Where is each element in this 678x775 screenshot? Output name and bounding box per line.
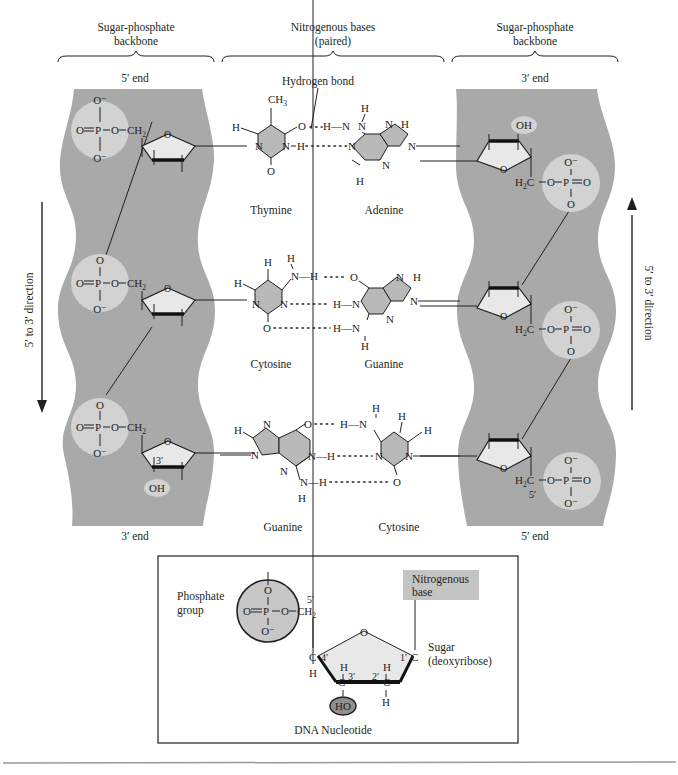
svg-text:H: H: [297, 140, 305, 152]
right-direction-label: 5′ to 3′ direction: [643, 266, 655, 341]
svg-text:H: H: [234, 277, 242, 289]
header-right-label: Sugar-phosphate backbone: [496, 21, 573, 47]
svg-text:O: O: [547, 323, 555, 335]
base-label-guanine-2: Guanine: [264, 521, 303, 533]
svg-text:O: O: [267, 165, 275, 177]
svg-text:O: O: [111, 421, 119, 433]
svg-text:N: N: [358, 120, 366, 132]
inset-ho-label: HO: [335, 700, 351, 712]
left-oh-label: OH: [149, 482, 165, 494]
svg-text:O: O: [111, 277, 119, 289]
header-left-label: Sugar-phosphate backbone: [97, 21, 174, 47]
hydrogen-bond-label: Hydrogen bond: [282, 75, 354, 88]
svg-text:H: H: [372, 402, 380, 414]
svg-text:H: H: [287, 252, 295, 264]
sugar-label: Sugar: [428, 641, 455, 654]
svg-text:base: base: [412, 586, 432, 598]
svg-text:O: O: [164, 129, 171, 140]
svg-text:(deoxyribose): (deoxyribose): [428, 655, 492, 668]
svg-text:O: O: [96, 399, 104, 411]
base-label-cytosine: Cytosine: [251, 358, 292, 371]
svg-text:O⁻: O⁻: [564, 303, 578, 315]
svg-text:O⁻: O⁻: [93, 94, 107, 106]
svg-text:O: O: [76, 277, 84, 289]
svg-text:H: H: [309, 667, 317, 679]
svg-text:H: H: [234, 424, 242, 436]
svg-text:N: N: [255, 140, 263, 152]
svg-text:H—N: H—N: [333, 298, 360, 310]
svg-text:O: O: [76, 421, 84, 433]
svg-text:O: O: [547, 176, 555, 188]
svg-text:C: C: [383, 676, 390, 688]
svg-text:H—N: H—N: [333, 322, 360, 334]
left-top-end-label: 5′ end: [121, 72, 149, 84]
svg-text:H: H: [413, 271, 421, 283]
right-top-end-label: 3′ end: [521, 72, 549, 84]
svg-text:H: H: [424, 424, 432, 436]
svg-text:O: O: [567, 345, 575, 357]
left-backbone: [58, 89, 215, 526]
svg-text:N: N: [396, 271, 404, 283]
svg-text:P: P: [563, 474, 569, 486]
svg-text:(paired): (paired): [315, 35, 352, 48]
svg-text:P: P: [95, 124, 101, 136]
svg-text:N: N: [263, 418, 271, 430]
svg-text:N: N: [251, 449, 259, 461]
svg-text:group: group: [177, 604, 204, 617]
left-3prime-label: 3′: [156, 455, 163, 466]
svg-text:Sugar-phosphate: Sugar-phosphate: [496, 21, 573, 34]
inset-title: DNA Nucleotide: [294, 724, 372, 736]
left-direction-arrow: 5′ to 3′ direction: [23, 202, 47, 413]
svg-text:N: N: [385, 118, 393, 130]
cytosine-ring: [381, 432, 408, 466]
svg-text:O: O: [298, 120, 306, 132]
svg-text:P: P: [263, 605, 269, 617]
svg-text:backbone: backbone: [513, 35, 557, 47]
brace-left: [58, 51, 214, 62]
svg-text:backbone: backbone: [114, 35, 158, 47]
svg-text:O: O: [500, 164, 507, 175]
svg-text:2′: 2′: [372, 671, 379, 682]
svg-text:CH3: CH3: [268, 93, 287, 108]
svg-text:O⁻: O⁻: [261, 625, 275, 637]
bottom-divider: [3, 762, 676, 763]
svg-text:H: H: [298, 492, 306, 504]
svg-text:N: N: [348, 140, 356, 152]
svg-text:N: N: [280, 298, 288, 310]
base-pair-1: Hydrogen bond CH3 H O H—N N N H O Thymin…: [232, 75, 460, 217]
svg-text:H: H: [232, 121, 240, 133]
base-label-thymine: Thymine: [250, 204, 292, 217]
svg-text:H: H: [264, 256, 272, 268]
left-bottom-end-label: 3′ end: [121, 530, 149, 542]
svg-text:N: N: [252, 298, 260, 310]
left-direction-label: 5′ to 3′ direction: [23, 272, 35, 347]
header-center-label: Nitrogenous bases (paired): [291, 21, 376, 48]
svg-text:O: O: [164, 436, 171, 447]
base-label-guanine: Guanine: [365, 358, 404, 370]
svg-text:H: H: [382, 696, 390, 708]
svg-text:O: O: [96, 254, 104, 266]
svg-text:O⁻: O⁻: [93, 447, 107, 459]
svg-text:H: H: [361, 102, 369, 114]
svg-text:N—H: N—H: [291, 270, 318, 282]
svg-text:O: O: [500, 311, 507, 322]
svg-text:O: O: [393, 476, 401, 488]
svg-text:O: O: [263, 322, 271, 334]
right-oh-label: OH: [516, 119, 532, 131]
svg-text:C: C: [338, 676, 345, 688]
svg-text:P: P: [95, 277, 101, 289]
svg-text:4′: 4′: [321, 652, 328, 663]
base-pair-3: H N N N O H—N H N—H N—H H O Guanine H H …: [220, 402, 460, 534]
svg-text:Nitrogenous bases: Nitrogenous bases: [291, 21, 376, 34]
svg-text:N: N: [280, 465, 288, 477]
brace-right: [452, 51, 618, 62]
svg-text:P: P: [563, 323, 569, 335]
nitrogenous-base-label: Nitrogenous: [412, 573, 469, 586]
svg-text:O⁻: O⁻: [93, 303, 107, 315]
svg-text:O⁻: O⁻: [564, 156, 578, 168]
svg-text:O: O: [76, 124, 84, 136]
svg-text:N: N: [282, 140, 290, 152]
svg-text:O: O: [583, 176, 591, 188]
right-bottom-end-label: 5′ end: [521, 530, 549, 542]
svg-text:N: N: [386, 313, 394, 325]
